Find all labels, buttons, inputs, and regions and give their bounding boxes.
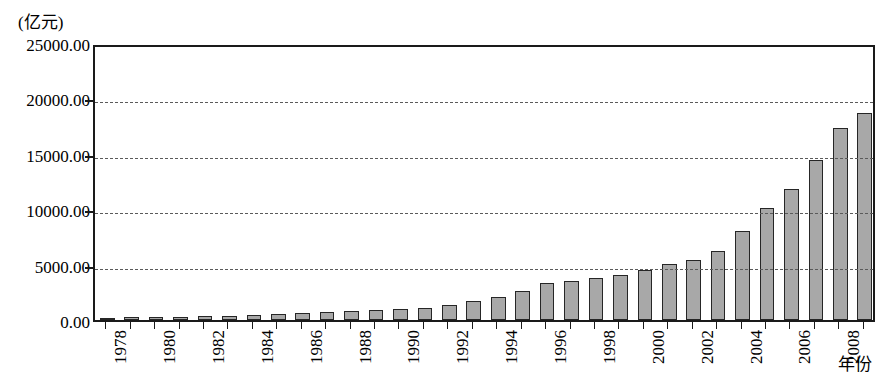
x-axis-tick-label: 1988 xyxy=(357,330,374,364)
bar-group xyxy=(760,47,775,320)
bar xyxy=(393,309,408,320)
bar xyxy=(564,281,579,320)
x-axis-tick-mark xyxy=(472,322,473,329)
x-axis-tick-label: 2002 xyxy=(699,330,716,364)
bar-group xyxy=(735,47,750,320)
bar-group xyxy=(686,47,701,320)
bar-group xyxy=(344,47,359,320)
x-axis-tick-label: 1982 xyxy=(210,330,227,364)
bar-group xyxy=(247,47,262,320)
bar xyxy=(491,297,506,320)
x-axis-tick-label: 1990 xyxy=(405,330,422,364)
bar-group xyxy=(662,47,677,320)
x-axis-tick-mark xyxy=(105,322,106,329)
bar-group xyxy=(466,47,481,320)
bar-group xyxy=(418,47,433,320)
x-axis-tick-mark xyxy=(667,322,668,329)
y-axis-tick-label: 10000.00 xyxy=(2,203,90,220)
bar-group xyxy=(809,47,824,320)
x-axis-tick-mark xyxy=(252,322,253,329)
bar xyxy=(124,317,139,320)
bar xyxy=(247,315,262,320)
x-axis-tick-mark xyxy=(814,322,815,329)
bar xyxy=(515,291,530,320)
bar-group xyxy=(515,47,530,320)
bar xyxy=(100,318,115,321)
bar xyxy=(344,311,359,320)
x-axis-tick-mark xyxy=(447,322,448,329)
y-axis-unit-label: (亿元) xyxy=(18,8,63,33)
x-axis-tick-label: 2000 xyxy=(650,330,667,364)
bar-group xyxy=(198,47,213,320)
y-axis-tick-label: 20000.00 xyxy=(2,92,90,109)
bar xyxy=(222,316,237,320)
x-axis-tick-mark xyxy=(741,322,742,329)
bar-group xyxy=(369,47,384,320)
bar-group xyxy=(442,47,457,320)
bar xyxy=(711,251,726,320)
bar xyxy=(271,314,286,320)
bar xyxy=(149,317,164,320)
bars-layer xyxy=(95,47,873,320)
y-axis-tick-mark xyxy=(85,267,93,269)
x-axis-tick-mark xyxy=(838,322,839,329)
bar-group xyxy=(100,47,115,320)
x-axis-tick-mark xyxy=(716,322,717,329)
bar xyxy=(369,310,384,320)
bar xyxy=(418,308,433,320)
x-axis-tick-label: 2006 xyxy=(796,330,813,364)
bar xyxy=(638,270,653,320)
bar-group xyxy=(857,47,872,320)
x-axis-tick-mark xyxy=(154,322,155,329)
x-axis-tick-mark xyxy=(496,322,497,329)
x-axis-tick-mark xyxy=(398,322,399,329)
bar-group xyxy=(393,47,408,320)
x-axis-tick-mark xyxy=(521,322,522,329)
x-axis-tick-mark xyxy=(545,322,546,329)
x-axis-tick-mark xyxy=(423,322,424,329)
x-axis-tick-label: 1984 xyxy=(259,330,276,364)
y-axis-tick-label: 15000.00 xyxy=(2,148,90,165)
x-axis-title: 年份 xyxy=(838,350,872,375)
x-axis-tick-label: 1996 xyxy=(552,330,569,364)
bar-group xyxy=(833,47,848,320)
x-axis-tick-mark xyxy=(594,322,595,329)
bar-group xyxy=(564,47,579,320)
bar xyxy=(540,283,555,320)
plot-area xyxy=(93,45,875,322)
x-axis-tick-mark xyxy=(301,322,302,329)
bar-group xyxy=(711,47,726,320)
y-axis-tick-mark xyxy=(85,211,93,213)
x-axis-tick-mark xyxy=(276,322,277,329)
x-axis-tick-label: 2004 xyxy=(748,330,765,364)
x-axis-tick-mark xyxy=(374,322,375,329)
bar-group xyxy=(589,47,604,320)
bar xyxy=(809,160,824,320)
bar-group xyxy=(613,47,628,320)
bar xyxy=(613,275,628,320)
x-axis-tick-mark xyxy=(227,322,228,329)
x-axis-tick-mark xyxy=(179,322,180,329)
x-axis-tick-mark xyxy=(130,322,131,329)
y-axis-tick-label: 25000.00 xyxy=(2,37,90,54)
x-axis-tick-label: 1992 xyxy=(454,330,471,364)
bar xyxy=(442,305,457,320)
y-axis-tick-mark xyxy=(85,100,93,102)
bar xyxy=(320,312,335,320)
x-axis-tick-mark xyxy=(618,322,619,329)
x-axis-tick-label: 1998 xyxy=(601,330,618,364)
bar-group xyxy=(638,47,653,320)
bar xyxy=(466,301,481,320)
bar-group xyxy=(124,47,139,320)
bar xyxy=(173,317,188,320)
x-axis-tick-mark xyxy=(350,322,351,329)
bar xyxy=(198,316,213,320)
y-axis-tick-mark xyxy=(85,156,93,158)
bar xyxy=(784,189,799,320)
x-axis-tick-label: 1986 xyxy=(308,330,325,364)
y-axis-tick-label: 0.00 xyxy=(2,314,90,331)
bar xyxy=(662,264,677,321)
bar-chart-figure: (亿元) 25000.0020000.0015000.0010000.00500… xyxy=(0,0,892,381)
x-axis-tick-mark xyxy=(789,322,790,329)
bar-group xyxy=(784,47,799,320)
